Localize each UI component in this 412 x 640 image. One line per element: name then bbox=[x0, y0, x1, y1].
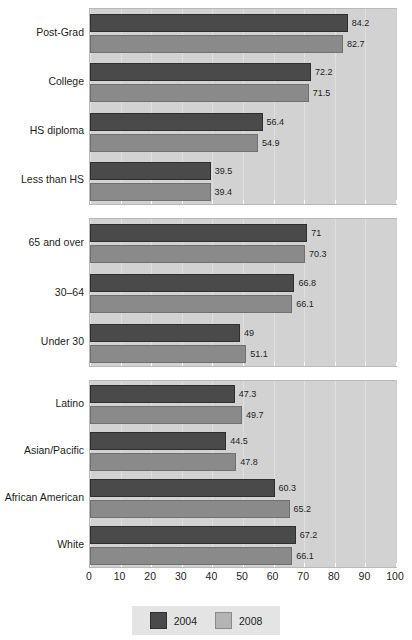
category-label-hs-diploma: HS diploma bbox=[2, 124, 84, 136]
bar-value-label: 39.5 bbox=[215, 162, 233, 180]
chart-legend: 2004 2008 bbox=[0, 606, 412, 635]
x-axis-tick-label: 40 bbox=[206, 570, 218, 582]
axis-tick bbox=[396, 200, 397, 204]
bar-education-1-2008 bbox=[90, 84, 309, 102]
bar-value-label: 66.1 bbox=[296, 547, 314, 565]
axis-tick bbox=[274, 200, 275, 204]
chart-panel-age: 7170.366.866.14951.1 bbox=[89, 218, 397, 367]
bar-value-label: 71.5 bbox=[313, 84, 331, 102]
bar-value-label: 54.9 bbox=[262, 134, 280, 152]
axis-tick bbox=[304, 362, 305, 366]
axis-tick bbox=[365, 362, 366, 366]
plot-area-education: 84.282.772.271.556.454.939.539.4 bbox=[90, 9, 396, 204]
gridline bbox=[365, 9, 366, 204]
category-label-white: White bbox=[2, 538, 84, 550]
axis-tick bbox=[335, 563, 336, 567]
x-axis-tick-label: 30 bbox=[175, 570, 187, 582]
bar-education-2-2004 bbox=[90, 113, 263, 131]
gridline bbox=[396, 219, 397, 366]
x-axis-tick-label: 50 bbox=[236, 570, 248, 582]
x-axis-tick-label: 20 bbox=[144, 570, 156, 582]
axis-tick bbox=[396, 563, 397, 567]
bar-value-label: 66.8 bbox=[298, 274, 316, 292]
bar-value-label: 51.1 bbox=[250, 345, 268, 363]
axis-tick bbox=[335, 200, 336, 204]
plot-area-race-ethnicity: 47.349.744.547.860.365.267.266.1 bbox=[90, 381, 396, 567]
bar-race-ethnicity-3-2008 bbox=[90, 547, 292, 565]
bar-value-label: 56.4 bbox=[267, 113, 285, 131]
legend-label-2008: 2008 bbox=[239, 615, 262, 627]
x-axis: 0102030405060708090100 bbox=[89, 570, 397, 586]
category-label-post-grad: Post-Grad bbox=[2, 26, 84, 38]
x-axis-tick-label: 0 bbox=[86, 570, 92, 582]
bar-value-label: 66.1 bbox=[296, 295, 314, 313]
axis-tick bbox=[274, 362, 275, 366]
bar-value-label: 47.8 bbox=[240, 453, 258, 471]
legend-item-2008: 2008 bbox=[215, 612, 262, 629]
axis-tick bbox=[335, 362, 336, 366]
bar-race-ethnicity-2-2008 bbox=[90, 500, 290, 518]
category-label-less-than-hs: Less than HS bbox=[2, 173, 84, 185]
bar-race-ethnicity-1-2008 bbox=[90, 453, 236, 471]
grouped-bar-chart: 84.282.772.271.556.454.939.539.4 7170.36… bbox=[0, 0, 412, 640]
axis-tick bbox=[396, 362, 397, 366]
axis-tick bbox=[365, 200, 366, 204]
category-label-latino: Latino bbox=[2, 397, 84, 409]
bar-value-label: 71 bbox=[311, 224, 321, 242]
bar-race-ethnicity-0-2008 bbox=[90, 406, 242, 424]
bar-value-label: 82.7 bbox=[347, 35, 365, 53]
x-axis-tick-label: 10 bbox=[114, 570, 126, 582]
bar-value-label: 72.2 bbox=[315, 63, 333, 81]
bar-age-0-2008 bbox=[90, 245, 305, 263]
bar-value-label: 84.2 bbox=[352, 14, 370, 32]
legend-swatch-icon-2004 bbox=[150, 612, 167, 629]
x-axis-tick-label: 70 bbox=[297, 570, 309, 582]
bar-education-2-2008 bbox=[90, 134, 258, 152]
chart-panel-education: 84.282.772.271.556.454.939.539.4 bbox=[89, 8, 397, 205]
bar-race-ethnicity-1-2004 bbox=[90, 432, 226, 450]
axis-tick bbox=[304, 200, 305, 204]
bar-education-3-2008 bbox=[90, 183, 211, 201]
bar-race-ethnicity-0-2004 bbox=[90, 385, 235, 403]
category-label-under-30: Under 30 bbox=[2, 335, 84, 347]
bar-race-ethnicity-3-2004 bbox=[90, 526, 296, 544]
gridline bbox=[335, 219, 336, 366]
axis-tick bbox=[365, 563, 366, 567]
legend-label-2004: 2004 bbox=[174, 615, 197, 627]
plot-area-age: 7170.366.866.14951.1 bbox=[90, 219, 396, 366]
gridline bbox=[365, 381, 366, 567]
bar-value-label: 67.2 bbox=[300, 526, 318, 544]
axis-tick bbox=[212, 200, 213, 204]
bar-age-1-2004 bbox=[90, 274, 294, 292]
bar-value-label: 70.3 bbox=[309, 245, 327, 263]
x-axis-tick-label: 80 bbox=[328, 570, 340, 582]
bar-value-label: 39.4 bbox=[215, 183, 233, 201]
bar-age-2-2004 bbox=[90, 324, 240, 342]
bar-education-1-2004 bbox=[90, 63, 311, 81]
category-label-30-64: 30–64 bbox=[2, 286, 84, 298]
bar-value-label: 65.2 bbox=[294, 500, 312, 518]
bar-value-label: 47.3 bbox=[239, 385, 257, 403]
gridline bbox=[396, 9, 397, 204]
category-label-65-and-over: 65 and over bbox=[2, 236, 84, 248]
bar-age-1-2008 bbox=[90, 295, 292, 313]
bar-value-label: 60.3 bbox=[279, 479, 297, 497]
bar-value-label: 49.7 bbox=[246, 406, 264, 424]
category-label-college: College bbox=[2, 75, 84, 87]
bar-education-3-2004 bbox=[90, 162, 211, 180]
axis-tick bbox=[243, 200, 244, 204]
x-axis-tick-label: 100 bbox=[386, 570, 404, 582]
x-axis-tick-label: 90 bbox=[359, 570, 371, 582]
gridline bbox=[335, 381, 336, 567]
gridline bbox=[365, 219, 366, 366]
chart-panel-race-ethnicity: 47.349.744.547.860.365.267.266.1 bbox=[89, 380, 397, 568]
gridline bbox=[396, 381, 397, 567]
bar-value-label: 44.5 bbox=[230, 432, 248, 450]
bar-age-0-2004 bbox=[90, 224, 307, 242]
bar-age-2-2008 bbox=[90, 345, 246, 363]
x-axis-tick-label: 60 bbox=[267, 570, 279, 582]
category-label-african-american: African American bbox=[2, 491, 84, 503]
legend-box: 2004 2008 bbox=[132, 606, 281, 635]
bar-value-label: 49 bbox=[244, 324, 254, 342]
legend-item-2004: 2004 bbox=[150, 612, 197, 629]
